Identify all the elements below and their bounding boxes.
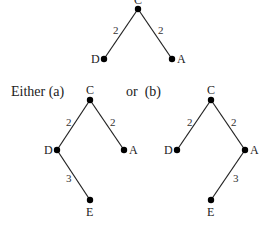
node-label-a: A [129,143,138,157]
node-d [54,147,60,153]
tree-a: 2 2 3 C D A E [44,83,138,219]
edge-weight-c-d: 2 [113,24,119,36]
node-e [208,197,214,203]
edge-weight-d-e: 3 [66,172,72,184]
node-label-a: A [250,143,259,157]
edge-c-d [104,9,138,59]
node-c [87,97,93,103]
edge-weight-c-a: 2 [158,24,164,36]
node-a [169,56,175,62]
node-label-a: A [177,52,186,66]
edge-c-a [211,100,245,150]
edge-weight-c-a: 2 [231,116,237,128]
spanning-tree-diagram: 2 2 C D A Either (a) or (b) 2 2 3 C D A … [0,0,269,225]
edge-weight-a-e: 3 [233,172,239,184]
node-label-c: C [134,0,142,7]
edge-c-d [177,100,211,150]
edge-a-e [211,150,245,200]
edge-c-d [57,100,90,150]
edge-d-e [57,150,90,200]
edge-weight-c-a: 2 [110,116,116,128]
node-label-d: D [91,52,100,66]
node-label-d: D [44,143,53,157]
edge-c-a [90,100,124,150]
node-e [87,197,93,203]
tree-b: 2 2 3 C D A E [164,83,259,219]
node-label-e: E [86,205,93,219]
node-d [101,56,107,62]
caption-or-b: or (b) [126,84,161,100]
node-label-c: C [86,83,94,97]
node-label-c: C [207,83,215,97]
tree-top: 2 2 C D A [91,0,186,66]
edge-c-a [138,9,172,59]
node-a [242,147,248,153]
caption-either-a: Either (a) [11,84,65,100]
node-d [174,147,180,153]
node-a [121,147,127,153]
node-label-e: E [207,205,214,219]
edge-weight-c-d: 2 [187,116,193,128]
node-c [208,97,214,103]
edge-weight-c-d: 2 [66,116,72,128]
node-label-d: D [164,143,173,157]
